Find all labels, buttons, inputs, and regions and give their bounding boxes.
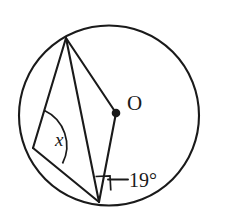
- angle-label-x: x: [55, 130, 63, 149]
- circle-outline: [19, 26, 199, 206]
- angle-label-19-degrees: 19°: [129, 170, 157, 190]
- geometry-canvas: [0, 0, 228, 222]
- center-point-dot: [112, 109, 121, 118]
- center-label-o: O: [127, 93, 142, 114]
- segment-center-to-bottom: [99, 113, 116, 202]
- geometry-diagram: O x 19°: [0, 0, 228, 222]
